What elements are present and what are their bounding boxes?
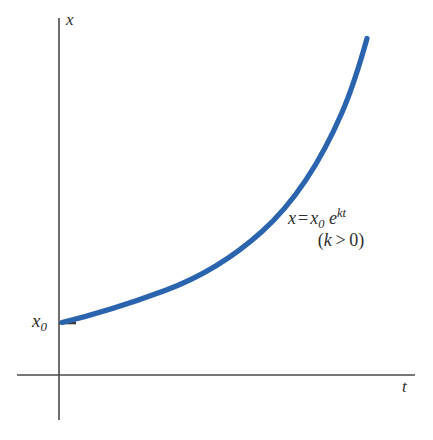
y-axis-label: x [66, 11, 74, 28]
exponential-curve [62, 39, 367, 323]
growth-condition-annotation: (k > 0) [296, 231, 386, 249]
condition-operator: > [335, 230, 345, 250]
initial-value-tick-label: x0 [32, 311, 47, 333]
exponential-growth-figure: x t x0 x=x0 ekt (k > 0) [0, 0, 433, 440]
curve-equation-annotation: x=x0 ekt [288, 207, 346, 230]
equation-lhs: x [288, 208, 296, 228]
equation-rhs-base: x [310, 208, 318, 228]
condition-close-paren: ) [358, 230, 364, 250]
equation-equals-sign: = [296, 208, 310, 228]
condition-value: 0 [349, 230, 358, 250]
initial-value-subscript: 0 [40, 319, 47, 334]
x-axis-label: t [402, 378, 407, 395]
equation-rhs-subscript: 0 [318, 217, 324, 231]
condition-symbol: k [324, 230, 332, 250]
equation-exponential-base: e [329, 208, 337, 228]
equation-exponent: kt [337, 206, 346, 220]
plot-canvas [0, 0, 433, 440]
